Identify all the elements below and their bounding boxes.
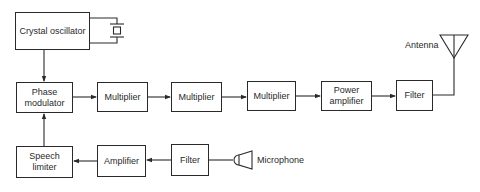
multiplier-1-label: Multiplier <box>104 92 140 103</box>
multiplier-3-label: Multiplier <box>253 91 289 102</box>
output-filter-label: Filter <box>405 90 425 101</box>
antenna-label: Antenna <box>405 40 439 50</box>
input-filter-block: Filter <box>171 144 209 176</box>
crystal-oscillator-block: Crystal oscillator <box>15 12 90 50</box>
speech-limiter-block: Speech limiter <box>16 146 73 178</box>
multiplier-2-block: Multiplier <box>171 82 222 112</box>
power-amplifier-block: Power amplifier <box>321 81 372 111</box>
output-filter-block: Filter <box>396 80 433 111</box>
block-diagram: Crystal oscillator Phase modulator Multi… <box>0 0 480 192</box>
amplifier-block: Amplifier <box>97 145 146 177</box>
multiplier-1-block: Multiplier <box>97 82 148 112</box>
microphone-label: Microphone <box>257 155 304 165</box>
speech-limiter-label-line1: Speech <box>29 151 60 162</box>
multiplier-2-label: Multiplier <box>178 92 214 103</box>
speech-limiter-label-line2: limiter <box>33 162 57 173</box>
input-filter-label: Filter <box>180 155 200 166</box>
phase-modulator-label-line1: Phase <box>32 87 58 98</box>
crystal-oscillator-label: Crystal oscillator <box>19 26 85 37</box>
power-amplifier-label-line1: Power <box>334 85 360 96</box>
phase-modulator-block: Phase modulator <box>16 82 73 113</box>
power-amplifier-label-line2: amplifier <box>329 96 363 107</box>
phase-modulator-label-line2: modulator <box>24 98 64 109</box>
amplifier-label: Amplifier <box>104 156 139 167</box>
multiplier-3-block: Multiplier <box>247 81 296 111</box>
